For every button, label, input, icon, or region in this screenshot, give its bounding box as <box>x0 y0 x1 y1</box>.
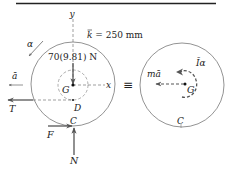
inertia-moment-label: Īα <box>195 57 206 68</box>
center-of-mass-dot <box>71 83 74 86</box>
center-label-g: G <box>62 84 70 95</box>
friction-label: F <box>46 129 54 140</box>
inertia-moment-arrowhead <box>176 69 183 76</box>
contact-point-label: C <box>70 116 77 126</box>
angular-accel-label: α <box>27 39 33 49</box>
x-axis-label: x <box>106 80 111 90</box>
kd-wheel-outline <box>140 43 224 127</box>
kd-contact-label: C <box>177 116 184 126</box>
equivalence-symbol: ≡ <box>123 78 133 92</box>
dynamics-diagram: y x k = 250 mm 70(9.81) N G D T ā <box>0 0 227 175</box>
tension-label: T <box>9 103 16 114</box>
normal-label: N <box>69 155 79 166</box>
point-d-label: D <box>73 103 81 113</box>
kinetic-diagram: G mā Īα C <box>140 43 224 128</box>
acceleration-label: ā <box>12 71 17 81</box>
y-axis-label: y <box>69 9 76 19</box>
weight-label: 70(9.81) N <box>48 52 97 62</box>
radius-of-gyration-label: k = 250 mm <box>87 30 143 40</box>
inertia-force-label: mā <box>147 69 161 79</box>
